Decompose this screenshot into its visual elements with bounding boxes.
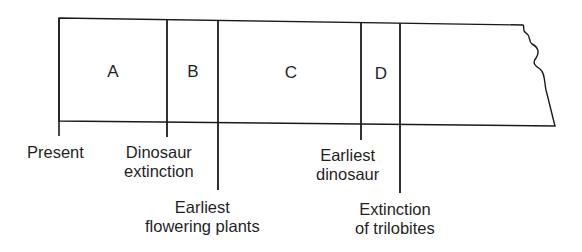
marker-present-text: Present <box>27 143 84 162</box>
marker-dinosaur-extinction-line1: Dinosaur <box>124 143 194 162</box>
marker-earliest-flowering-plants-line1: Earliest <box>145 198 260 217</box>
marker-present-label: Present <box>27 143 84 162</box>
marker-extinction-of-trilobites-label: Extinction of trilobites <box>355 200 435 238</box>
marker-earliest-dinosaur-line2: dinosaur <box>316 165 379 184</box>
geologic-timeline-diagram: A B C D Present Dinosaur extinction Earl… <box>0 0 582 252</box>
marker-earliest-dinosaur-line1: Earliest <box>316 146 379 165</box>
segment-a-label: A <box>107 62 118 82</box>
marker-earliest-flowering-plants-label: Earliest flowering plants <box>145 198 260 236</box>
marker-earliest-flowering-plants-line2: flowering plants <box>145 217 260 236</box>
marker-extinction-of-trilobites-line2: of trilobites <box>355 219 435 238</box>
marker-dinosaur-extinction-line2: extinction <box>124 162 194 181</box>
timeline-strip-graphic <box>0 0 582 252</box>
marker-dinosaur-extinction-label: Dinosaur extinction <box>124 143 194 181</box>
segment-d-label: D <box>375 64 387 84</box>
segment-b-label: B <box>187 62 198 82</box>
strip-outline <box>59 18 555 126</box>
marker-earliest-dinosaur-label: Earliest dinosaur <box>316 146 379 184</box>
segment-c-label: C <box>285 63 297 83</box>
marker-extinction-of-trilobites-line1: Extinction <box>355 200 435 219</box>
